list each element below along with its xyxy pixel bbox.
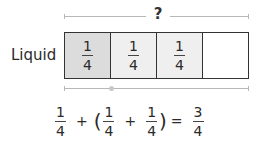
denominator: 4 bbox=[104, 124, 113, 138]
denominator: 4 bbox=[129, 58, 138, 72]
fraction-bar bbox=[82, 55, 93, 56]
open-paren: ( bbox=[94, 109, 102, 133]
numerator: 3 bbox=[192, 105, 205, 119]
bracket-marker-dot bbox=[109, 86, 114, 91]
fraction-one-fourth: 1 4 bbox=[173, 39, 186, 72]
denominator: 4 bbox=[83, 58, 92, 72]
numerator: 1 bbox=[145, 105, 158, 119]
bar-cell-2: 1 4 bbox=[111, 33, 157, 78]
equation-result: 3 4 bbox=[192, 105, 205, 138]
top-bracket-left-line bbox=[64, 16, 146, 17]
top-bracket-right-line bbox=[170, 16, 249, 17]
top-bracket-right-tick bbox=[248, 14, 249, 19]
close-paren: ) bbox=[159, 109, 167, 133]
bar-cell-4-empty bbox=[203, 33, 248, 78]
numerator: 1 bbox=[127, 39, 140, 53]
denominator: 4 bbox=[175, 58, 184, 72]
numerator: 1 bbox=[173, 39, 186, 53]
numerator: 1 bbox=[54, 105, 67, 119]
numerator: 1 bbox=[81, 39, 94, 53]
denominator: 4 bbox=[56, 124, 65, 138]
numerator: 1 bbox=[102, 105, 115, 119]
bar-cell-1: 1 4 bbox=[65, 33, 111, 78]
equation: 1 4 + ( 1 4 + 1 4 ) = 3 4 bbox=[54, 104, 205, 138]
denominator: 4 bbox=[147, 124, 156, 138]
fraction-bar bbox=[103, 121, 114, 122]
fraction-bar bbox=[146, 121, 157, 122]
equals-sign: = bbox=[171, 113, 183, 129]
bottom-bracket-line bbox=[64, 88, 249, 89]
row-label: Liquid bbox=[11, 46, 56, 64]
fraction-one-fourth: 1 4 bbox=[127, 39, 140, 72]
tape-diagram-bar: 1 4 1 4 1 4 bbox=[64, 32, 249, 79]
fraction-bar bbox=[174, 55, 185, 56]
equation-term-2: 1 4 bbox=[102, 105, 115, 138]
fraction-one-fourth: 1 4 bbox=[81, 39, 94, 72]
fraction-bar bbox=[193, 121, 204, 122]
fraction-bar bbox=[128, 55, 139, 56]
equation-term-1: 1 4 bbox=[54, 105, 67, 138]
bar-cell-3: 1 4 bbox=[157, 33, 203, 78]
denominator: 4 bbox=[194, 124, 203, 138]
equation-term-3: 1 4 bbox=[145, 105, 158, 138]
fraction-bar bbox=[55, 121, 66, 122]
bottom-bracket-right-tick bbox=[248, 86, 249, 91]
plus-sign: + bbox=[76, 113, 88, 129]
plus-sign: + bbox=[124, 113, 136, 129]
total-unknown-label: ? bbox=[150, 5, 166, 23]
